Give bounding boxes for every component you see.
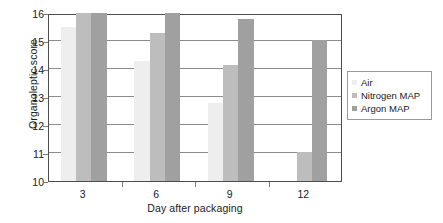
bar (312, 40, 327, 181)
bar (297, 152, 312, 181)
bar (150, 33, 165, 181)
legend-item: Air (352, 76, 428, 89)
chart-figure: Organoleptic score 10111213141516 36912 … (0, 0, 443, 223)
x-tick-label: 9 (210, 188, 250, 200)
bar-group (281, 15, 327, 181)
legend-label: Air (361, 78, 373, 88)
x-tick-mark (195, 182, 196, 187)
bar (134, 61, 149, 181)
x-tick-label: 6 (136, 188, 176, 200)
legend-item: Nitrogen MAP (352, 89, 428, 102)
y-tick-label: 10 (22, 177, 44, 188)
x-tick-label: 3 (63, 188, 103, 200)
x-axis-title: Day after packaging (48, 202, 342, 214)
y-axis-ticks: 10111213141516 (22, 0, 44, 223)
bar-group (208, 15, 254, 181)
bar (223, 65, 238, 181)
bar-group (61, 15, 107, 181)
y-tick-label: 12 (22, 121, 44, 132)
bar (208, 103, 223, 181)
bar (61, 27, 76, 181)
bar (238, 19, 253, 181)
legend-label: Argon MAP (361, 104, 410, 114)
bar (76, 13, 91, 181)
y-tick-label: 14 (22, 65, 44, 76)
y-tick-label: 15 (22, 37, 44, 48)
legend-swatch-icon (352, 106, 357, 111)
x-tick-mark (122, 182, 123, 187)
legend-swatch-icon (352, 80, 357, 85)
x-tick-label: 12 (283, 188, 323, 200)
y-tick-label: 16 (22, 9, 44, 20)
bar-series-layer (49, 15, 341, 181)
legend-label: Nitrogen MAP (361, 91, 420, 101)
bar-group (134, 15, 180, 181)
y-tick-label: 13 (22, 93, 44, 104)
legend-swatch-icon (352, 93, 357, 98)
chart-legend: AirNitrogen MAPArgon MAP (347, 71, 432, 120)
bar (165, 13, 180, 181)
y-tick-label: 11 (22, 149, 44, 160)
plot-area (48, 14, 342, 182)
x-tick-mark (269, 182, 270, 187)
bar (91, 13, 106, 181)
legend-item: Argon MAP (352, 102, 428, 115)
